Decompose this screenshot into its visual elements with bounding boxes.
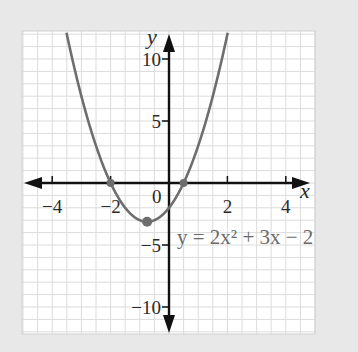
- equation-label: y = 2x² + 3x − 2: [177, 225, 313, 249]
- y-axis-label: y: [145, 24, 157, 49]
- y-tick-label: −5: [141, 235, 161, 256]
- y-tick-label: 10: [142, 49, 161, 70]
- vertex-point: [142, 217, 152, 227]
- root-point: [107, 179, 115, 187]
- x-tick-label: 4: [281, 196, 291, 217]
- parabola-chart: −4−224105−5−10 y x 0 y = 2x² + 3x − 2: [0, 0, 358, 352]
- root-point: [180, 179, 188, 187]
- x-tick-label: −2: [100, 196, 120, 217]
- origin-label: 0: [152, 186, 162, 207]
- y-tick-label: −10: [131, 297, 161, 318]
- x-tick-label: −4: [42, 196, 63, 217]
- x-axis-label: x: [299, 178, 310, 203]
- x-tick-label: 2: [223, 196, 233, 217]
- y-tick-label: 5: [152, 111, 162, 132]
